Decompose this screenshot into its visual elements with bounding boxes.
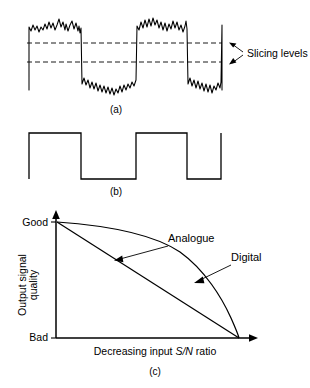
y-axis-title-group: Output signal quality	[16, 254, 39, 316]
panel-b-label: (b)	[110, 186, 122, 197]
panel-b-group: (b)	[29, 133, 221, 197]
analogue-leader-line	[120, 246, 168, 259]
panel-a-group: Slicing levels (a)	[27, 18, 308, 115]
x-axis-title-suffix: ratio	[193, 345, 217, 357]
x-axis-title-prefix: Decreasing input	[94, 345, 176, 357]
slicing-levels-annotation: Slicing levels	[229, 42, 308, 64]
digital-leader-line	[200, 265, 231, 280]
slicing-levels-lower-arrowhead	[229, 58, 236, 65]
digital-arrowhead	[194, 277, 204, 284]
slicing-levels-label: Slicing levels	[247, 47, 308, 59]
figure-container: Slicing levels (a) (b) Good Bad	[0, 0, 310, 388]
x-axis-arrowhead	[249, 334, 258, 342]
y-axis-title-line2: quality	[27, 269, 39, 300]
y-axis-bad-label: Bad	[29, 331, 48, 343]
y-axis-good-label: Good	[22, 216, 48, 228]
digital-annotation: Digital	[194, 251, 262, 283]
panel-c-label: (c)	[149, 366, 161, 377]
figure-svg: Slicing levels (a) (b) Good Bad	[0, 0, 310, 388]
analogue-annotation: Analogue	[114, 232, 215, 262]
panel-a-label: (a)	[110, 104, 122, 115]
panel-c-group: Good Bad Output signal quality Decreasin…	[16, 210, 262, 377]
regenerated-square-wave	[29, 133, 221, 179]
y-axis-arrowhead	[52, 210, 60, 219]
x-axis-title-italic: S/N	[175, 345, 193, 357]
noisy-signal-waveform	[29, 18, 222, 95]
digital-label: Digital	[231, 251, 262, 263]
x-axis-title: Decreasing input S/N ratio	[94, 345, 217, 357]
analogue-label: Analogue	[168, 232, 215, 244]
